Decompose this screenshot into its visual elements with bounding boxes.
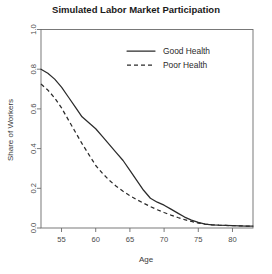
- y-tick-label: 0.4: [29, 143, 38, 154]
- chart-container: Simulated Labor Market Participation Age…: [0, 0, 272, 274]
- x-tick-label: 55: [57, 235, 65, 244]
- x-tick-label: 80: [228, 235, 236, 244]
- x-axis-label: Age: [139, 255, 154, 264]
- legend-label: Poor Health: [163, 60, 208, 70]
- chart-legend: Good HealthPoor Health: [127, 46, 210, 70]
- data-series-layer: [41, 69, 253, 226]
- y-tick-label: 0.6: [29, 104, 38, 115]
- x-axis-ticks: 556065707580: [57, 228, 236, 244]
- y-axis-ticks: 0.00.20.40.60.81.0: [29, 24, 41, 233]
- y-tick-label: 0.0: [29, 223, 38, 234]
- x-tick-label: 65: [126, 235, 134, 244]
- y-tick-label: 0.2: [29, 183, 38, 194]
- plot-frame: [41, 30, 253, 229]
- y-axis-label: Share of Workers: [6, 99, 15, 161]
- series-line-good-health: [41, 69, 253, 226]
- y-tick-label: 1.0: [29, 24, 38, 35]
- x-tick-label: 75: [194, 235, 202, 244]
- line-chart: Simulated Labor Market Participation Age…: [0, 0, 272, 274]
- series-line-poor-health: [41, 84, 253, 226]
- chart-title: Simulated Labor Market Participation: [52, 4, 220, 15]
- x-tick-label: 70: [160, 235, 168, 244]
- legend-label: Good Health: [163, 46, 210, 56]
- y-tick-label: 0.8: [29, 64, 38, 75]
- x-tick-label: 60: [91, 235, 99, 244]
